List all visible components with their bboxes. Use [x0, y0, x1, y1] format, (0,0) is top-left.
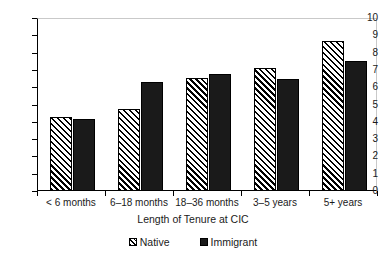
x-axis-tick-label: 3–5 years	[241, 197, 309, 209]
bar-immigrant	[345, 61, 367, 191]
y-axis-tick-mark	[32, 87, 37, 88]
bar-native	[254, 68, 276, 191]
y-axis-tick-mark	[32, 156, 37, 157]
y-axis-tick-mark	[32, 122, 37, 123]
legend-swatch-immigrant-icon	[200, 238, 208, 246]
x-axis-tick-mark	[105, 191, 106, 196]
bar-native	[118, 109, 140, 191]
y-axis-tick-mark	[32, 53, 37, 54]
x-axis-title: Length of Tenure at CIC	[0, 213, 386, 226]
bar-immigrant	[209, 74, 231, 191]
y-axis-tick-mark	[32, 139, 37, 140]
bar-native	[322, 41, 344, 192]
x-axis-tick-mark	[377, 191, 378, 196]
y-axis-tick-mark	[32, 70, 37, 71]
y-axis-tick-mark	[32, 105, 37, 106]
bar-native	[50, 117, 72, 191]
bar-immigrant	[73, 119, 95, 191]
y-axis-tick-mark	[32, 174, 37, 175]
legend-item-immigrant: Immigrant	[200, 236, 258, 248]
x-axis-tick-label: < 6 months	[37, 197, 105, 209]
bar-chart: 012345678910 < 6 months6–18 months18–36 …	[0, 0, 386, 262]
bar-native	[186, 78, 208, 191]
x-axis-tick-labels: < 6 months6–18 months18–36 months3–5 yea…	[37, 197, 377, 211]
x-axis-tick-mark	[241, 191, 242, 196]
bar-immigrant	[277, 79, 299, 191]
y-axis-tick-mark	[32, 18, 37, 19]
y-axis-tick-mark	[32, 35, 37, 36]
legend-swatch-native-icon	[129, 238, 137, 246]
legend-label-native: Native	[140, 236, 170, 248]
x-axis-tick-mark	[173, 191, 174, 196]
x-axis-tick-mark	[309, 191, 310, 196]
x-axis-tick-label: 6–18 months	[105, 197, 173, 209]
x-axis-tick-label: 18–36 months	[173, 197, 241, 209]
chart-legend: Native Immigrant	[0, 236, 386, 248]
x-axis-ticks	[37, 191, 377, 196]
x-axis-tick-label: 5+ years	[309, 197, 377, 209]
legend-item-native: Native	[129, 236, 170, 248]
bar-immigrant	[141, 82, 163, 191]
x-axis-tick-mark	[37, 191, 38, 196]
bar-series-group	[38, 18, 377, 191]
legend-label-immigrant: Immigrant	[211, 236, 258, 248]
